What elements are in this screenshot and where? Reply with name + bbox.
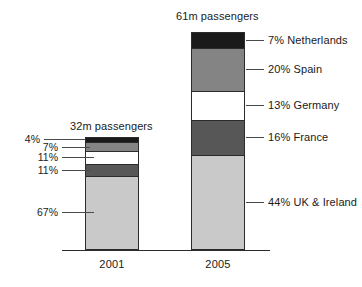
callout-leader-2001-spain — [62, 147, 90, 148]
callout-label-2005-uk-ireland: 44% UK & Ireland — [268, 196, 357, 208]
callout-label-2005-spain: 20% Spain — [268, 63, 322, 75]
x-axis-label-2001: 2001 — [85, 258, 139, 270]
bar-2005 — [191, 32, 245, 250]
bar-segment-2005-france — [192, 120, 244, 155]
bar-2001 — [85, 137, 139, 250]
callout-label-2001-france: 11% — [14, 164, 58, 176]
callout-label-2005-germany: 13% Germany — [268, 99, 339, 111]
callout-leader-2001-uk-ireland — [62, 212, 94, 213]
bar-segment-2001-france — [86, 164, 138, 177]
bar-segment-2001-spain — [86, 142, 138, 150]
callout-leader-2005-uk-ireland — [246, 202, 264, 203]
callout-leader-2005-france — [246, 137, 264, 138]
callout-leader-2001-germany — [62, 157, 94, 158]
callout-label-2001-uk-ireland: 67% — [14, 206, 58, 218]
callout-leader-2005-spain — [246, 69, 264, 70]
stacked-bar-chart: 32m passengers 61m passengers 2001 2005 … — [0, 0, 362, 287]
callout-leader-2001-france — [62, 170, 90, 171]
callout-leader-2005-germany — [246, 105, 264, 106]
callout-label-2005-netherlands: 7% Netherlands — [268, 34, 348, 46]
callout-leader-2005-netherlands — [246, 40, 264, 41]
bar-segment-2005-spain — [192, 48, 244, 91]
callout-leader-2001-netherlands — [44, 139, 85, 140]
bar-segment-2005-germany — [192, 91, 244, 120]
x-axis-label-2005: 2005 — [191, 258, 245, 270]
callout-label-2001-germany: 11% — [14, 151, 58, 163]
bar-segment-2005-uk-ireland — [192, 155, 244, 249]
x-axis-line — [62, 250, 270, 251]
bar-segment-2005-netherlands — [192, 33, 244, 48]
callout-label-2005-france: 16% France — [268, 131, 328, 143]
bar-total-label-2005: 61m passengers — [176, 10, 259, 22]
bar-total-label-2001: 32m passengers — [70, 120, 153, 132]
